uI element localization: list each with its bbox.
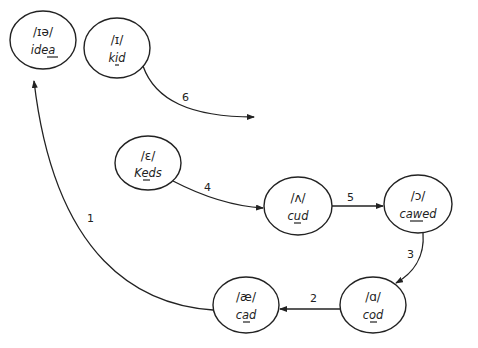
ipa-label: /ɪ/ bbox=[111, 33, 125, 47]
word-label: cod bbox=[363, 308, 384, 322]
edge-4-keds-to-cud bbox=[173, 181, 263, 208]
word-label: kid bbox=[108, 51, 126, 65]
edge-label-5: 5 bbox=[347, 191, 354, 204]
edge-label-4: 4 bbox=[204, 181, 211, 194]
edge-6-kid-outgoing bbox=[143, 66, 254, 117]
ipa-label: /ʌ/ bbox=[290, 191, 306, 205]
ipa-label: /ɔ/ bbox=[411, 189, 427, 203]
vowel-shift-diagram: 1 2 3 4 5 6 /ɪə/ idea /ɪ/ kid /ɛ/ Keds /… bbox=[0, 0, 478, 348]
word-label: cud bbox=[288, 209, 310, 223]
ipa-label: /ɛ/ bbox=[141, 149, 157, 163]
node-keds: /ɛ/ Keds bbox=[115, 136, 181, 190]
node-cod: /ɑ/ cod bbox=[340, 277, 406, 333]
edge-label-2: 2 bbox=[310, 292, 317, 305]
ipa-label: /ɪə/ bbox=[33, 25, 54, 39]
node-cad: /æ/ cad bbox=[213, 277, 279, 333]
word-label: cad bbox=[236, 308, 257, 322]
node-kid: /ɪ/ kid bbox=[84, 18, 150, 78]
node-cawed: /ɔ/ cawed bbox=[384, 175, 452, 233]
edge-label-1: 1 bbox=[87, 212, 94, 225]
edge-1-cad-to-idea bbox=[34, 81, 213, 310]
word-label: Keds bbox=[134, 166, 162, 180]
ipa-label: /æ/ bbox=[236, 290, 257, 304]
ipa-label: /ɑ/ bbox=[365, 290, 382, 304]
word-label: cawed bbox=[399, 207, 437, 221]
edge-label-3: 3 bbox=[407, 248, 414, 261]
node-idea: /ɪə/ idea bbox=[10, 11, 76, 69]
edge-label-6: 6 bbox=[182, 91, 189, 104]
word-label: idea bbox=[31, 43, 56, 57]
node-cud: /ʌ/ cud bbox=[264, 177, 332, 235]
